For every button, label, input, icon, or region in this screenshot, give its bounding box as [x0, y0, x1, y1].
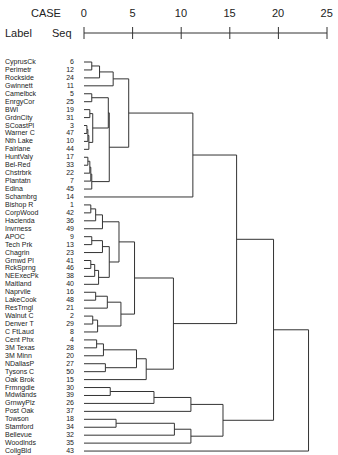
- dendrogram-plot: [0, 0, 338, 455]
